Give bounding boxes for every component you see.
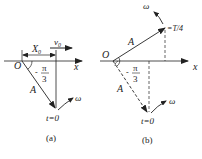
omega-label: ω (75, 93, 81, 103)
amplitude-label-top: A (127, 36, 135, 47)
angle-label: - π 3 (35, 63, 49, 84)
panel-caption: (b) (142, 135, 153, 145)
omega-rotation-arrow-bottom (151, 101, 166, 113)
displacement-label: X0 (31, 43, 41, 55)
omega-rotation-arrow-top (154, 12, 163, 24)
omega-label-bottom: ω (169, 96, 175, 106)
panel-caption: (a) (46, 133, 56, 143)
svg-text:-: - (126, 68, 129, 77)
svg-text:-: - (35, 68, 38, 77)
panel-b: x O A =T/4 ω A - π 3 ω t=0 (b) (100, 1, 198, 145)
angle-label: - π 3 (126, 63, 140, 84)
time-label: t=0 (46, 113, 60, 123)
phasor-diagram: x O X0 v0 A - π 3 ω t=0 (a) (0, 0, 202, 159)
x-axis-label: x (192, 61, 198, 72)
x-axis-label: x (73, 61, 79, 72)
omega-rotation-arrow (58, 98, 73, 110)
amplitude-vector (22, 61, 55, 108)
amplitude-label-bottom: A (116, 83, 124, 94)
svg-text:3: 3 (133, 74, 138, 84)
angle-arc (117, 58, 120, 66)
svg-text:π: π (42, 63, 47, 73)
amplitude-vector-top (113, 28, 165, 61)
angle-arc (28, 61, 32, 69)
time-label-top: =T/4 (167, 24, 183, 33)
amplitude-label: A (29, 84, 37, 95)
svg-text:3: 3 (42, 74, 47, 84)
origin-label: O (14, 60, 21, 71)
omega-label-top: ω (143, 1, 149, 11)
origin-label: O (102, 49, 109, 60)
time-label: t=0 (141, 116, 155, 126)
panel-a: x O X0 v0 A - π 3 ω t=0 (a) (4, 37, 82, 143)
svg-text:π: π (133, 63, 138, 73)
velocity-label: v0 (54, 37, 61, 48)
